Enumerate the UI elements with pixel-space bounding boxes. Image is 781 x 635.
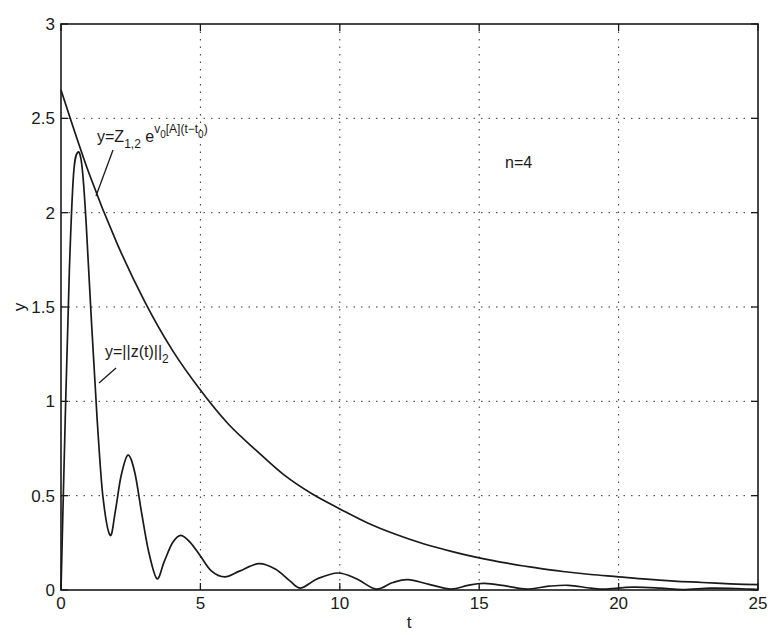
y-tick-label: 0.5	[31, 487, 55, 506]
norm-curve-label: y=||z(t)||2	[105, 343, 169, 366]
exp-label-leader-line	[96, 150, 113, 196]
norm-label-leader-line	[99, 368, 116, 383]
y-tick-label: 0	[46, 581, 55, 600]
x-tick-label: 5	[196, 594, 205, 613]
x-axis-label: t	[407, 613, 412, 632]
axis-ticks: 051015202500.511.522.53	[31, 15, 767, 613]
y-tick-label: 2	[46, 204, 55, 223]
y-tick-label: 1	[46, 392, 55, 411]
x-tick-label: 0	[56, 594, 65, 613]
y-axis-label: y	[10, 302, 29, 311]
line-chart: 051015202500.511.522.53 t y n=4 y=Z1,2 e…	[0, 0, 781, 635]
y-tick-label: 3	[46, 15, 55, 34]
y-tick-label: 2.5	[31, 109, 55, 128]
x-tick-label: 15	[470, 594, 489, 613]
x-tick-label: 10	[330, 594, 349, 613]
norm-curve	[61, 152, 758, 590]
x-tick-label: 20	[609, 594, 628, 613]
y-tick-label: 1.5	[31, 298, 55, 317]
exp-bound-curve	[61, 90, 758, 585]
data-series	[61, 90, 758, 590]
plot-frame	[61, 24, 758, 590]
x-tick-label: 25	[749, 594, 768, 613]
grid-lines	[61, 24, 758, 590]
exp-curve-label: y=Z1,2 ev0[A](t−t0)	[97, 122, 208, 151]
n-annotation: n=4	[505, 154, 532, 171]
